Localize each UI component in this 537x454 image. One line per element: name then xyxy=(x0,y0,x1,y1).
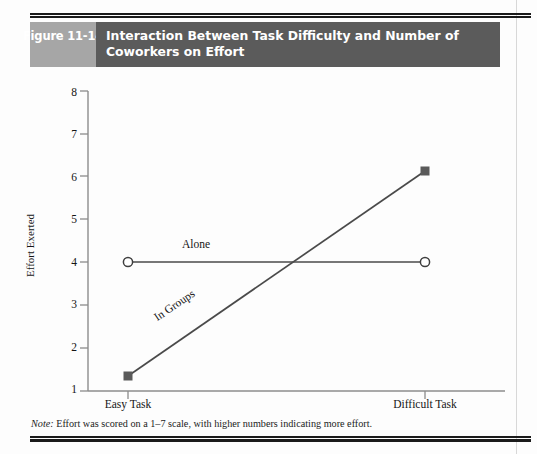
marker-alone-easy-task xyxy=(123,257,132,266)
y-tick-label-5: 5 xyxy=(57,213,77,225)
marker-in-groups-easy-task xyxy=(124,372,133,381)
top-rule xyxy=(30,13,531,18)
figure-number-label: Figure 11-14 xyxy=(30,22,96,67)
figure-page: Figure 11-14 Interaction Between Task Di… xyxy=(0,0,537,454)
bottom-rule xyxy=(30,436,531,442)
y-tick-label-8: 8 xyxy=(57,86,77,98)
series-line-in-groups xyxy=(128,171,425,376)
series-label-alone: Alone xyxy=(182,238,210,250)
x-tick-label-difficult-task: Difficult Task xyxy=(393,398,457,410)
bottom-rule-line-2 xyxy=(30,439,531,442)
marker-alone-difficult-task xyxy=(420,257,429,266)
bottom-rule-line-1 xyxy=(30,436,531,438)
top-rule-line-2 xyxy=(30,16,531,18)
y-tick-label-4: 4 xyxy=(57,256,77,268)
figure-note: Note: Effort was scored on a 1–7 scale, … xyxy=(31,418,372,429)
y-axis-ticks xyxy=(80,91,88,391)
y-axis-title: Effort Exerted xyxy=(24,190,38,300)
figure-header: Figure 11-14 Interaction Between Task Di… xyxy=(30,22,500,67)
note-text: Effort was scored on a 1–7 scale, with h… xyxy=(54,418,372,429)
chart-plot-area xyxy=(0,0,537,454)
top-rule-line-1 xyxy=(30,13,531,15)
series-label-in-groups: In Groups xyxy=(152,287,197,323)
marker-in-groups-difficult-task xyxy=(421,167,430,176)
x-axis-ticks xyxy=(128,391,425,399)
x-tick-label-easy-task: Easy Task xyxy=(105,398,152,410)
page-edge-line xyxy=(516,0,517,454)
y-tick-label-6: 6 xyxy=(57,171,77,183)
y-tick-label-7: 7 xyxy=(57,128,77,140)
y-tick-label-1: 1 xyxy=(57,383,77,395)
figure-title: Interaction Between Task Difficulty and … xyxy=(96,22,500,67)
y-tick-label-2: 2 xyxy=(57,341,77,353)
y-tick-label-3: 3 xyxy=(57,298,77,310)
note-label: Note: xyxy=(31,418,54,429)
